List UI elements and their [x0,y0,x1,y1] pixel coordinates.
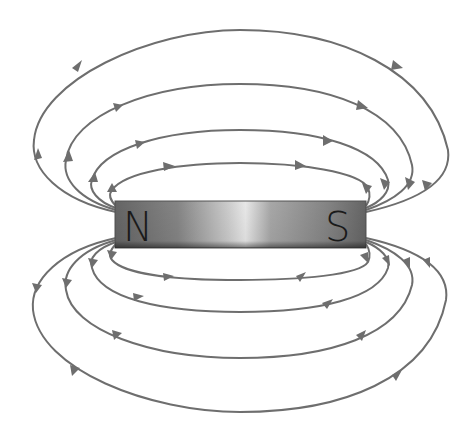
arrow-icon [391,60,403,70]
arrow-icon [107,250,117,260]
diagram-canvas: N S [0,0,463,434]
field-line-bottom-3 [91,242,388,312]
arrow-icon [72,60,82,72]
field-line-bottom-2 [65,240,412,358]
arrow-icon [32,283,42,293]
field-line-top-4 [110,163,370,206]
arrow-icon [70,365,80,376]
north-pole-label: N [123,204,153,250]
arrow-icon [382,255,390,266]
magnetic-field-diagram: N S [0,0,463,434]
top-arrows [34,60,432,194]
arrow-icon [323,135,333,146]
arrow-icon [295,160,306,170]
arrow-icon [392,370,402,381]
arrow-icon [163,162,175,171]
arrow-icon [88,172,98,182]
south-pole-label: S [325,204,350,250]
arrow-icon [362,183,372,194]
bar-magnet: N S [115,201,366,250]
arrow-icon [360,252,368,263]
arrow-icon [133,293,144,301]
arrow-icon [88,258,98,268]
arrow-icon [62,278,72,288]
